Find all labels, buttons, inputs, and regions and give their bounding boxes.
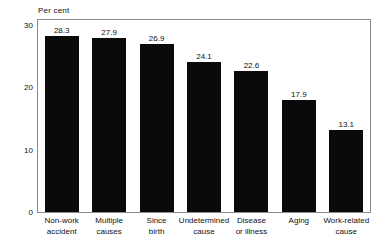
bar-value-label: 17.9 [282, 90, 316, 99]
bar-value-label: 26.9 [140, 34, 174, 43]
bar[interactable] [329, 130, 363, 212]
x-tick-label-line: or illness [223, 227, 280, 238]
bar[interactable] [92, 38, 126, 212]
chart-page: Per cent 0102030 28.327.926.924.122.617.… [0, 0, 388, 250]
y-axis-title: Per cent [38, 6, 69, 15]
bar-value-label: 24.1 [187, 52, 221, 61]
bar-slot: 27.9 [92, 20, 126, 212]
y-tick-label-10: 10 [5, 145, 33, 154]
y-axis-tick-labels: 0102030 [0, 0, 33, 250]
bar-slot: 28.3 [45, 20, 79, 212]
x-axis-category-labels: Non-workaccidentMultiplecausesSincebirth… [38, 216, 370, 250]
y-tick-label-30: 30 [5, 20, 33, 29]
bars-area: 28.327.926.924.122.617.913.1 [38, 20, 370, 212]
x-tick-label: Work-relatedcause [318, 216, 375, 237]
bar[interactable] [187, 62, 221, 212]
bar-slot: 24.1 [187, 20, 221, 212]
bar[interactable] [140, 44, 174, 212]
bar-value-label: 22.6 [234, 61, 268, 70]
bar[interactable] [282, 100, 316, 212]
y-tick-label-0: 0 [5, 208, 33, 217]
bar-value-label: 28.3 [45, 26, 79, 35]
bar-value-label: 27.9 [92, 28, 126, 37]
bar-slot: 17.9 [282, 20, 316, 212]
bar[interactable] [45, 36, 79, 212]
bar-value-label: 13.1 [329, 120, 363, 129]
bar-slot: 26.9 [140, 20, 174, 212]
x-tick-label-line: cause [318, 227, 375, 238]
x-tick-label-line: Work-related [318, 216, 375, 227]
bar-slot: 22.6 [234, 20, 268, 212]
bar[interactable] [234, 71, 268, 212]
y-tick-label-20: 20 [5, 83, 33, 92]
bar-slot: 13.1 [329, 20, 363, 212]
